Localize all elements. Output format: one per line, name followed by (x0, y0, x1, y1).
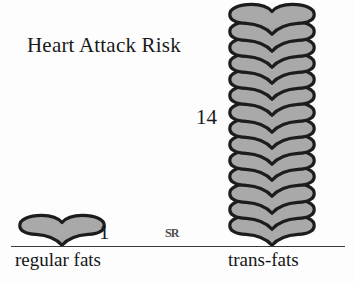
value-label-trans-fats: 14 (196, 105, 217, 130)
heart-icon (227, 1, 317, 37)
heart-stack-trans-fats (227, 1, 317, 248)
pictogram-chart: Heart Attack Risk 1 14 SR regular fats t… (0, 0, 354, 284)
category-label-trans-fats: trans-fats (228, 249, 299, 271)
sr-watermark: SR (165, 226, 178, 241)
chart-title: Heart Attack Risk (27, 33, 181, 58)
category-label-regular-fats: regular fats (15, 249, 101, 271)
axis-baseline (11, 246, 345, 247)
heart-icon (17, 212, 107, 248)
value-label-regular-fats: 1 (99, 220, 110, 245)
heart-stack-regular-fats (17, 212, 107, 248)
